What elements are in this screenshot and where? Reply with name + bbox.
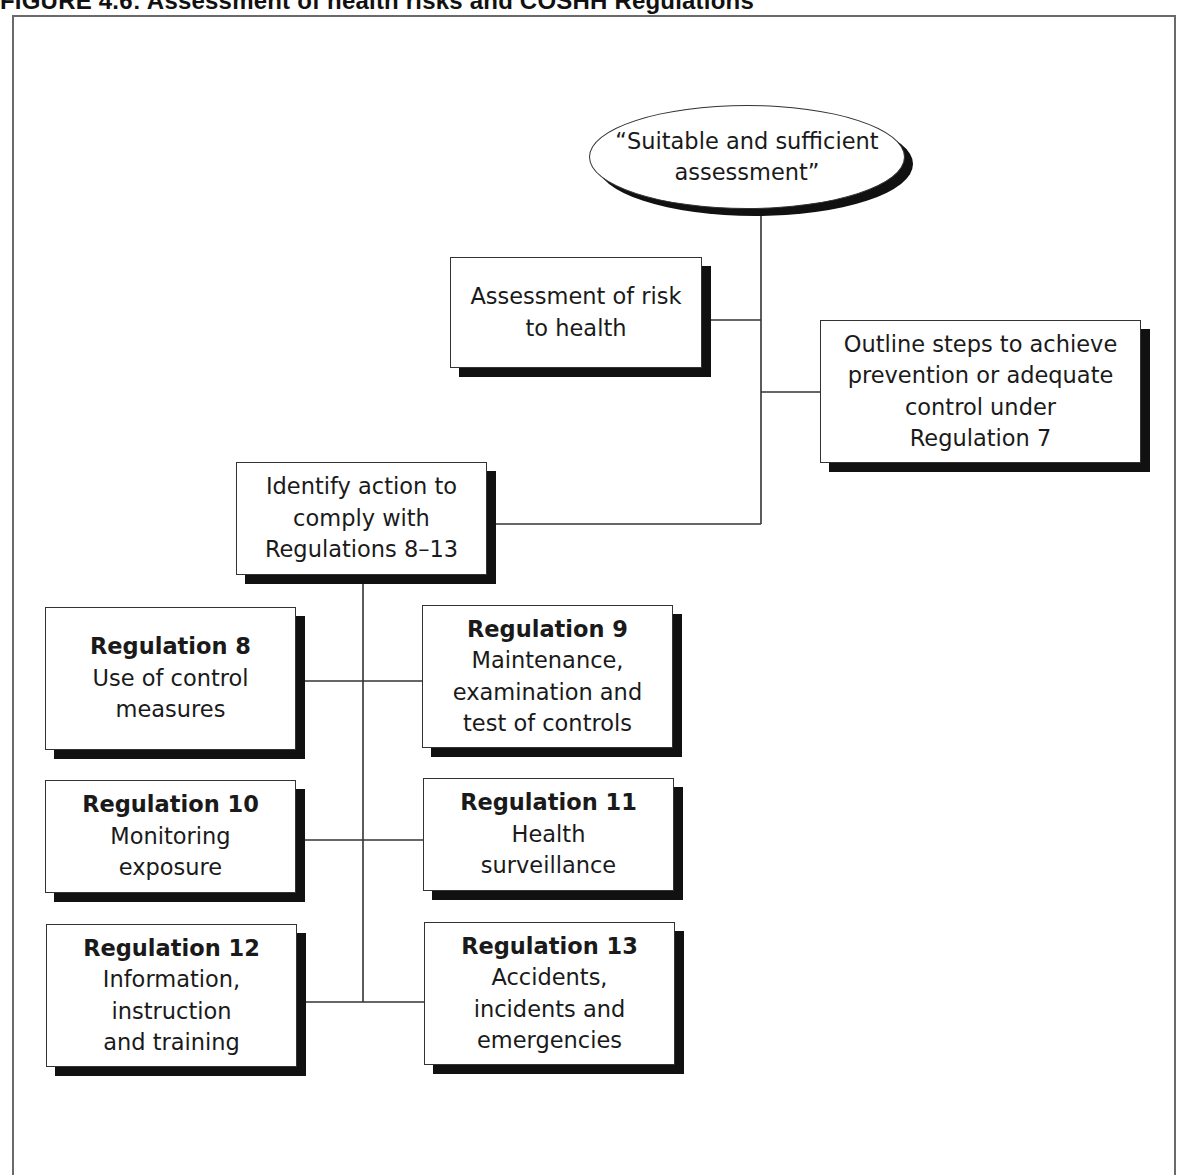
node-title: Regulation 13 [461,931,638,963]
node-line: control under [905,392,1056,424]
node-title: Regulation 12 [83,933,260,965]
root-node-line: assessment” [674,157,819,188]
node-regulation-9: Regulation 9 Maintenance, examination an… [422,605,673,748]
node-line: Monitoring [110,821,230,853]
node-line: comply with [293,503,430,535]
node-line: surveillance [481,850,616,882]
node-regulation-8: Regulation 8 Use of control measures [45,607,296,750]
node-title: Regulation 8 [90,631,251,663]
node-line: Identify action to [266,471,457,503]
node-line: Information, [103,964,240,996]
node-line: Maintenance, [471,645,623,677]
node-regulation-10: Regulation 10 Monitoring exposure [45,780,296,893]
node-title: Regulation 9 [467,614,628,646]
node-regulation-13: Regulation 13 Accidents, incidents and e… [424,922,675,1065]
root-node-suitable-assessment: “Suitable and sufficient assessment” [589,105,905,209]
node-regulation-12: Regulation 12 Information, instruction a… [46,924,297,1067]
node-line: emergencies [477,1025,622,1057]
node-line: and training [103,1027,240,1059]
node-line: instruction [111,996,231,1028]
node-regulation-11: Regulation 11 Health surveillance [423,778,674,891]
node-risk-assessment: Assessment of risk to health [450,257,702,368]
root-node-line: “Suitable and sufficient [615,126,878,157]
node-line: incidents and [474,994,626,1026]
node-title: Regulation 10 [82,789,259,821]
node-line: Regulation 7 [910,423,1052,455]
node-line: Accidents, [491,962,607,994]
node-identify-action: Identify action to comply with Regulatio… [236,462,487,575]
node-line: to health [526,313,627,345]
node-line: test of controls [463,708,632,740]
node-line: measures [116,694,226,726]
node-line: examination and [453,677,642,709]
node-line: exposure [119,852,222,884]
node-line: prevention or adequate [848,360,1114,392]
node-line: Outline steps to achieve [844,329,1118,361]
node-line: Assessment of risk [470,281,681,313]
node-line: Regulations 8–13 [265,534,458,566]
node-line: Health [512,819,586,851]
node-line: Use of control [92,663,248,695]
node-title: Regulation 11 [460,787,637,819]
node-regulation-7: Outline steps to achieve prevention or a… [820,320,1141,463]
